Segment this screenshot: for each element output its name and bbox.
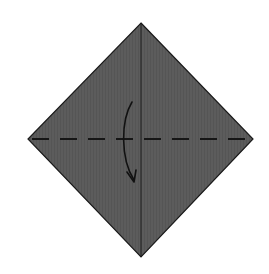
origami-diagram (0, 0, 269, 274)
diagram-svg (0, 0, 269, 274)
